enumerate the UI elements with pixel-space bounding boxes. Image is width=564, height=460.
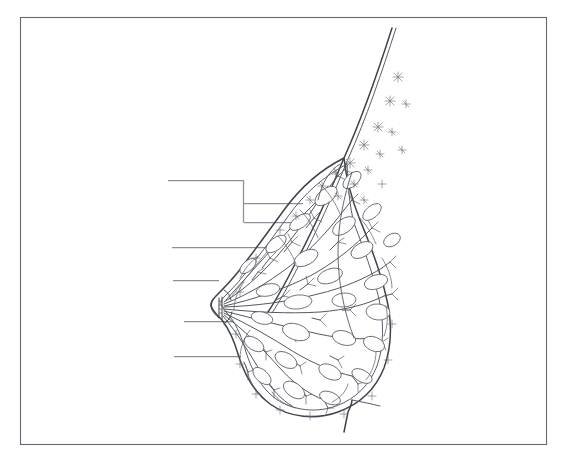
fat-cell	[393, 72, 403, 82]
fat-cell	[373, 122, 383, 132]
fat-cell	[345, 158, 355, 168]
fat-cell	[359, 140, 369, 150]
fat-cell	[385, 96, 395, 106]
breast-anatomy-illustration	[0, 0, 564, 460]
diagram-page	[0, 0, 564, 460]
